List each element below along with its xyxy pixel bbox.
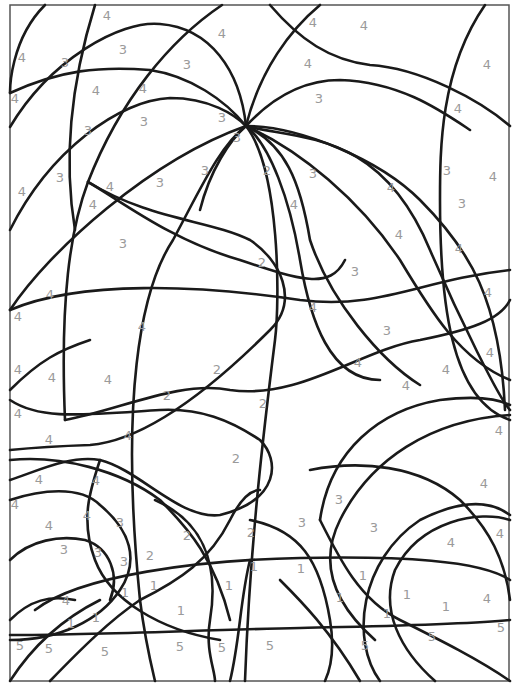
region-number-label: 4 xyxy=(304,57,312,70)
region-number-label: 3 xyxy=(94,546,102,559)
region-number-label: 3 xyxy=(370,521,378,534)
region-number-label: 4 xyxy=(484,286,492,299)
region-number-label: 2 xyxy=(183,529,191,542)
region-number-label: 4 xyxy=(45,433,53,446)
region-number-label: 1 xyxy=(250,560,258,573)
region-number-label: 4 xyxy=(402,379,410,392)
region-number-label: 2 xyxy=(263,164,271,177)
region-number-label: 2 xyxy=(163,389,171,402)
region-number-label: 3 xyxy=(458,197,466,210)
region-number-label: 1 xyxy=(383,607,391,620)
region-number-label: 4 xyxy=(387,181,395,194)
region-number-label: 1 xyxy=(177,604,185,617)
region-number-label: 3 xyxy=(315,92,323,105)
region-number-label: 3 xyxy=(298,516,306,529)
region-number-label: 3 xyxy=(183,58,191,71)
region-number-label: 4 xyxy=(486,346,494,359)
region-number-label: 4 xyxy=(495,424,503,437)
region-number-label: 4 xyxy=(35,473,43,486)
region-number-label: 1 xyxy=(297,562,305,575)
region-number-label: 5 xyxy=(218,641,226,654)
region-number-label: 2 xyxy=(213,363,221,376)
region-number-label: 4 xyxy=(354,356,362,369)
region-number-label: 1 xyxy=(442,600,450,613)
region-number-label: 3 xyxy=(119,237,127,250)
region-number-label: 1 xyxy=(225,579,233,592)
region-number-label: 4 xyxy=(138,320,146,333)
region-number-label: 4 xyxy=(92,84,100,97)
region-number-label: 1 xyxy=(67,617,75,630)
region-number-label: 3 xyxy=(351,265,359,278)
region-number-label: 4 xyxy=(89,198,97,211)
region-number-label: 5 xyxy=(497,621,505,634)
region-number-label: 4 xyxy=(139,82,147,95)
region-number-label: 3 xyxy=(233,131,241,144)
region-number-label: 4 xyxy=(360,19,368,32)
region-number-label: 4 xyxy=(104,373,112,386)
region-number-label: 1 xyxy=(403,588,411,601)
region-number-label: 1 xyxy=(92,611,100,624)
region-number-label: 4 xyxy=(18,185,26,198)
region-number-label: 2 xyxy=(258,256,266,269)
region-number-label: 3 xyxy=(383,324,391,337)
region-number-label: 3 xyxy=(119,43,127,56)
region-number-label: 4 xyxy=(455,242,463,255)
region-number-label: 4 xyxy=(48,371,56,384)
region-number-label: 4 xyxy=(45,519,53,532)
region-number-label: 4 xyxy=(309,301,317,314)
region-number-label: 3 xyxy=(120,555,128,568)
region-number-label: 1 xyxy=(336,591,344,604)
region-number-label: 4 xyxy=(83,509,91,522)
region-number-label: 4 xyxy=(483,58,491,71)
region-number-label: 4 xyxy=(106,180,114,193)
region-number-label: 5 xyxy=(45,642,53,655)
region-number-label: 1 xyxy=(121,586,129,599)
region-number-label: 5 xyxy=(16,639,24,652)
region-number-label: 4 xyxy=(124,429,132,442)
region-number-label: 2 xyxy=(146,549,154,562)
region-number-label: 5 xyxy=(101,645,109,658)
region-number-label: 4 xyxy=(496,527,504,540)
region-number-label: 1 xyxy=(359,569,367,582)
region-number-label: 5 xyxy=(266,639,274,652)
region-number-label: 3 xyxy=(61,56,69,69)
region-number-label: 3 xyxy=(56,171,64,184)
region-number-label: 5 xyxy=(428,630,436,643)
region-number-label: 4 xyxy=(14,407,22,420)
region-number-label: 5 xyxy=(361,639,369,652)
region-number-label: 4 xyxy=(11,498,19,511)
region-number-label: 4 xyxy=(442,363,450,376)
region-number-label: 4 xyxy=(395,228,403,241)
region-number-label: 4 xyxy=(218,27,226,40)
region-number-label: 4 xyxy=(92,474,100,487)
region-number-label: 4 xyxy=(480,477,488,490)
region-number-label: 4 xyxy=(489,170,497,183)
region-number-label: 4 xyxy=(447,536,455,549)
region-number-label: 3 xyxy=(443,164,451,177)
region-number-label: 2 xyxy=(259,397,267,410)
region-number-label: 3 xyxy=(201,164,209,177)
region-number-label: 3 xyxy=(140,115,148,128)
region-number-label: 3 xyxy=(218,111,226,124)
region-number-label: 4 xyxy=(309,16,317,29)
region-number-label: 4 xyxy=(46,288,54,301)
region-number-label: 4 xyxy=(14,310,22,323)
region-number-label: 4 xyxy=(103,9,111,22)
region-number-label: 1 xyxy=(150,579,158,592)
region-number-label: 3 xyxy=(60,543,68,556)
region-number-label: 4 xyxy=(14,363,22,376)
region-number-label: 4 xyxy=(290,198,298,211)
region-number-label: 4 xyxy=(18,51,26,64)
region-number-label: 4 xyxy=(62,594,70,607)
region-number-label: 3 xyxy=(116,516,124,529)
outline-curves xyxy=(10,5,510,681)
region-number-label: 4 xyxy=(11,92,19,105)
coloring-page-drawing xyxy=(0,0,520,687)
region-number-label: 3 xyxy=(156,176,164,189)
region-number-label: 3 xyxy=(309,167,317,180)
region-number-label: 5 xyxy=(176,640,184,653)
region-number-label: 2 xyxy=(247,526,255,539)
region-number-label: 2 xyxy=(232,452,240,465)
region-number-label: 4 xyxy=(454,102,462,115)
region-number-label: 4 xyxy=(483,592,491,605)
